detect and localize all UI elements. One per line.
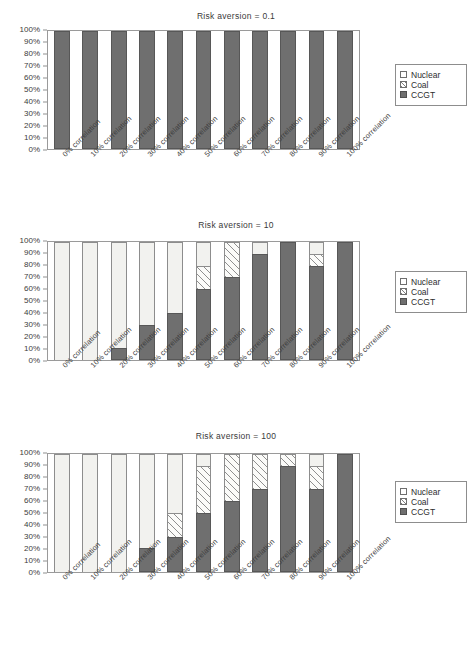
chart-panel-risk-aversion-10: Risk aversion = 10 100%90%80%70%60%50%40… (0, 211, 472, 423)
y-axis-tick-label: 100% (20, 237, 40, 245)
legend-item-label: CCGT (411, 508, 435, 517)
y-axis-tick-label: 10% (24, 134, 40, 142)
y-axis-tick-label: 50% (24, 297, 40, 305)
bar-segment-nuclear (167, 454, 183, 513)
filled-square-icon (400, 508, 407, 515)
y-axis-tick-label: 80% (24, 261, 40, 269)
bar-segment-ccgt (54, 31, 70, 149)
y-axis-tick-label: 50% (24, 509, 40, 517)
hatched-square-icon (400, 498, 407, 505)
bar-segment-nuclear (252, 242, 268, 254)
y-axis-tick-label: 40% (24, 98, 40, 106)
bar-segment-nuclear (196, 454, 212, 466)
legend-item-nuclear[interactable]: Nuclear (400, 488, 461, 497)
y-axis-tick-label: 60% (24, 74, 40, 82)
legend-item-label: Coal (411, 81, 428, 90)
y-axis-tick-label: 30% (24, 110, 40, 118)
bar-segment-coal (196, 266, 212, 290)
chart-panel-risk-aversion-0-1: Risk aversion = 0.1 100%90%80%70%60%50%4… (0, 0, 472, 211)
bar-segment-coal (309, 466, 325, 490)
stacked-bar[interactable] (54, 242, 70, 360)
y-axis-tick-label: 70% (24, 62, 40, 70)
bar-segment-coal (224, 454, 240, 501)
bar-segment-nuclear (54, 242, 70, 360)
y-axis-tick-label: 80% (24, 473, 40, 481)
legend: NuclearCoalCCGT (395, 64, 467, 106)
bar-segment-coal (196, 466, 212, 513)
y-axis: 100%90%80%70%60%50%40%30%20%10%0% (0, 30, 47, 150)
legend: NuclearCoalCCGT (395, 271, 467, 313)
legend-item-label: Coal (411, 498, 428, 507)
y-axis-tick-label: 0% (28, 357, 40, 365)
bar-segment-coal (224, 242, 240, 277)
x-axis: 0% correlation10% correlation20% correla… (47, 362, 360, 420)
y-axis-tick-label: 90% (24, 249, 40, 257)
legend: NuclearCoalCCGT (395, 481, 467, 523)
bar-segment-nuclear (309, 454, 325, 466)
stacked-bar[interactable] (54, 454, 70, 572)
bar-segment-coal (252, 454, 268, 489)
legend-item-label: CCGT (411, 91, 435, 100)
legend-item-ccgt[interactable]: CCGT (400, 298, 461, 307)
legend-item-ccgt[interactable]: CCGT (400, 508, 461, 517)
x-axis: 0% correlation10% correlation20% correla… (47, 151, 360, 209)
chart-title: Risk aversion = 10 (0, 220, 472, 230)
white-square-icon (400, 278, 407, 285)
x-axis: 0% correlation10% correlation20% correla… (47, 574, 360, 632)
filled-square-icon (400, 91, 407, 98)
y-axis-tick-label: 20% (24, 545, 40, 553)
bar-segment-coal (280, 454, 296, 466)
bar-segment-nuclear (196, 242, 212, 266)
y-axis-tick-label: 70% (24, 485, 40, 493)
legend-item-coal[interactable]: Coal (400, 498, 461, 507)
bar-segment-coal (309, 254, 325, 266)
y-axis-tick-label: 60% (24, 285, 40, 293)
white-square-icon (400, 488, 407, 495)
filled-square-icon (400, 298, 407, 305)
y-axis-tick-label: 50% (24, 86, 40, 94)
y-axis-tick-label: 100% (20, 449, 40, 457)
legend-item-nuclear[interactable]: Nuclear (400, 71, 461, 80)
y-axis-tick-label: 30% (24, 533, 40, 541)
y-axis: 100%90%80%70%60%50%40%30%20%10%0% (0, 241, 47, 361)
legend-item-label: Coal (411, 288, 428, 297)
legend-item-coal[interactable]: Coal (400, 288, 461, 297)
chart-title: Risk aversion = 100 (0, 431, 472, 441)
y-axis-tick-label: 0% (28, 146, 40, 154)
bar-slot (48, 454, 76, 572)
legend-item-label: Nuclear (411, 488, 440, 497)
y-axis-tick-label: 90% (24, 38, 40, 46)
y-axis-tick-label: 80% (24, 50, 40, 58)
y-axis-tick-label: 100% (20, 26, 40, 34)
y-axis-tick-label: 90% (24, 461, 40, 469)
bar-segment-nuclear (54, 454, 70, 572)
y-axis-tick-label: 40% (24, 521, 40, 529)
y-axis-tick-label: 60% (24, 497, 40, 505)
bar-segment-coal (167, 513, 183, 537)
chart-panel-risk-aversion-100: Risk aversion = 100 100%90%80%70%60%50%4… (0, 423, 472, 638)
y-axis-tick-label: 20% (24, 122, 40, 130)
y-axis-tick-label: 20% (24, 333, 40, 341)
legend-item-label: Nuclear (411, 71, 440, 80)
y-axis-tick-label: 10% (24, 557, 40, 565)
legend-item-label: CCGT (411, 298, 435, 307)
legend-item-ccgt[interactable]: CCGT (400, 91, 461, 100)
y-axis-tick-label: 40% (24, 309, 40, 317)
hatched-square-icon (400, 288, 407, 295)
y-axis-tick-label: 30% (24, 321, 40, 329)
hatched-square-icon (400, 81, 407, 88)
y-axis-tick-label: 10% (24, 345, 40, 353)
bar-segment-nuclear (139, 454, 155, 548)
legend-item-nuclear[interactable]: Nuclear (400, 278, 461, 287)
bar-slot (48, 31, 76, 149)
chart-title: Risk aversion = 0.1 (0, 11, 472, 21)
legend-item-coal[interactable]: Coal (400, 81, 461, 90)
white-square-icon (400, 71, 407, 78)
bar-segment-nuclear (167, 242, 183, 313)
legend-item-label: Nuclear (411, 278, 440, 287)
bar-segment-nuclear (139, 242, 155, 325)
stacked-bar[interactable] (54, 31, 70, 149)
y-axis-tick-label: 70% (24, 273, 40, 281)
y-axis: 100%90%80%70%60%50%40%30%20%10%0% (0, 453, 47, 573)
bar-slot (48, 242, 76, 360)
